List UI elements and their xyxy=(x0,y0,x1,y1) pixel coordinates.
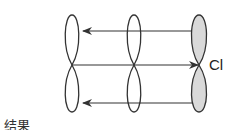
p-orbital-cl xyxy=(191,15,206,112)
orbital-top-lobe xyxy=(127,15,141,65)
p-orbital-2 xyxy=(127,15,141,112)
p-orbital-diagram xyxy=(0,0,228,130)
orbital-bottom-lobe xyxy=(127,65,141,112)
orbital-top-lobe xyxy=(65,15,79,65)
orbital-bottom-lobe xyxy=(65,65,79,112)
chlorine-label: Cl xyxy=(209,56,223,73)
caption-partial: 结果 xyxy=(4,119,30,130)
p-orbital-1 xyxy=(65,15,79,112)
orbital-top-lobe xyxy=(191,15,206,65)
orbital-bottom-lobe xyxy=(191,65,206,112)
